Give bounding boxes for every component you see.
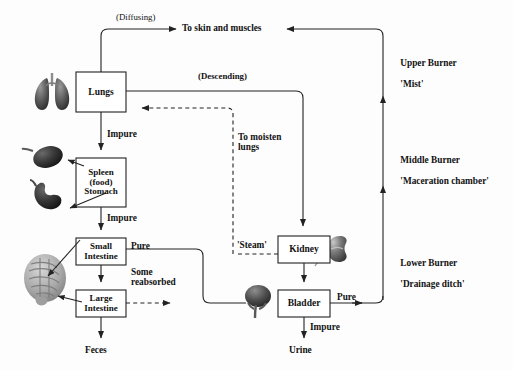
edge-to-moisten-lungs <box>142 108 233 254</box>
edge-label-diffusing: (Diffusing) <box>116 13 155 23</box>
edge-label-to-moisten-lungs: To moisten lungs <box>238 132 281 153</box>
lungs-illustration <box>35 73 69 110</box>
box-label-kidney: Kidney <box>278 236 330 263</box>
edge-label-pure-small-intestine: Pure <box>131 241 150 251</box>
edge-upper-riser <box>287 29 383 96</box>
edge-label-to-skin-and-muscles: To skin and muscles <box>182 23 262 33</box>
edge-label-descending: (Descending) <box>198 72 247 82</box>
edge-label-urine: Urine <box>289 345 312 355</box>
box-label-bladder: Bladder <box>278 290 330 317</box>
edge-label-impure-lungs: Impure <box>107 129 137 139</box>
edge-label-impure-stomach: Impure <box>107 213 137 223</box>
burner-upper-name: Upper Burner <box>400 58 456 68</box>
burner-upper-nickname: 'Mist' <box>400 79 423 89</box>
burner-lower-nickname: 'Drainage ditch' <box>400 279 464 289</box>
burner-label-upper: Upper Burner 'Mist' <box>391 48 457 100</box>
burner-lower-name: Lower Burner <box>400 258 457 268</box>
box-label-lungs: Lungs <box>76 72 126 112</box>
bladder-illustration <box>245 285 271 318</box>
burner-middle-nickname: 'Maceration chamber' <box>400 176 489 186</box>
diagram-canvas: Lungs Spleen (food) Stomach Small Intest… <box>0 0 513 370</box>
box-label-large-intestine: Large Intestine <box>74 290 128 317</box>
edge-lungs-to-skin <box>101 29 176 72</box>
burner-label-lower: Lower Burner 'Drainage ditch' <box>391 248 465 300</box>
box-label-spleen-stomach: Spleen (food) Stomach <box>76 158 126 207</box>
burner-label-middle: Middle Burner 'Maceration chamber' <box>391 145 489 197</box>
edge-label-some-reabsorbed: Some reabsorbed <box>131 267 176 288</box>
edge-label-impure-bladder: Impure <box>310 322 340 332</box>
box-label-small-intestine: Small Intestine <box>74 238 128 265</box>
edge-descending <box>126 91 303 226</box>
intestines-illustration <box>24 254 66 305</box>
edge-label-steam: 'Steam' <box>237 240 267 250</box>
spleen-illustration <box>22 143 65 171</box>
edge-label-pure-bladder: Pure <box>337 292 356 302</box>
edge-label-feces: Feces <box>85 345 107 355</box>
burner-middle-name: Middle Burner <box>400 155 460 165</box>
stomach-illustration <box>30 180 61 209</box>
